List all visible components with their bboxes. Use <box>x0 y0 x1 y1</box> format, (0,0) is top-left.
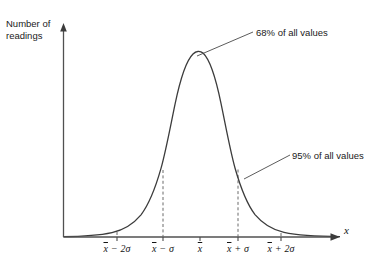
axis-lines <box>60 23 340 241</box>
sigma-boundary-lines <box>117 170 281 237</box>
annotation-68-percent: 68% of all values <box>256 27 328 38</box>
bell-curve-outline <box>63 51 340 236</box>
curve-fill-regions <box>63 51 340 236</box>
arrow-right-icon <box>331 233 341 241</box>
normal-distribution-figure: Number of readings 68% of all values 95%… <box>0 0 390 267</box>
core-cross-hatch <box>63 51 340 236</box>
annotation-leader-lines <box>197 32 290 179</box>
x-tick-label: x <box>198 243 202 254</box>
x-axis-label: x <box>344 224 349 236</box>
right-wing-hatch <box>63 51 340 236</box>
y-axis-label: Number of readings <box>6 18 66 42</box>
x-tick-label: x + σ <box>227 243 249 254</box>
x-tick-label: x − 2σ <box>103 243 130 254</box>
left-wing-hatch <box>63 51 340 236</box>
x-tick-label: x + 2σ <box>267 243 294 254</box>
x-tick-label: x − σ <box>152 243 174 254</box>
annotation-95-percent: 95% of all values <box>292 150 364 161</box>
